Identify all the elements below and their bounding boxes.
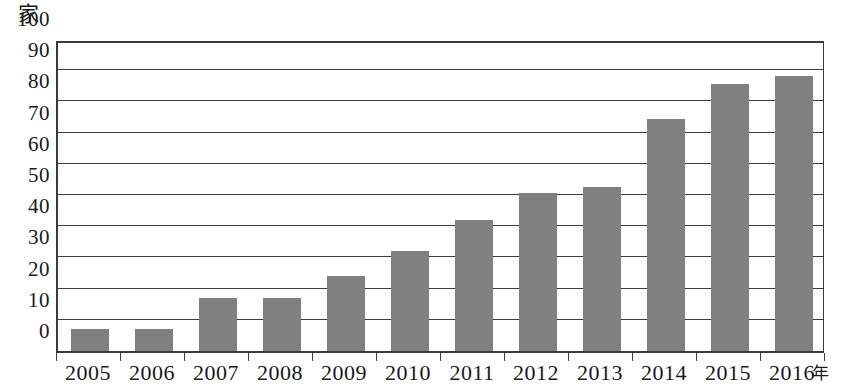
bar[interactable] <box>199 298 237 351</box>
bar-slot <box>570 43 634 351</box>
plot-area <box>56 41 824 353</box>
bar[interactable] <box>327 276 365 351</box>
bar[interactable] <box>455 220 493 351</box>
bar[interactable] <box>583 187 621 351</box>
bar[interactable] <box>263 298 301 351</box>
y-axis-tick-label: 40 <box>2 196 50 217</box>
bar-chart: 家 0102030405060708090100 200520062007200… <box>0 0 844 387</box>
bar[interactable] <box>391 251 429 351</box>
x-axis-tick-label: 2005 <box>65 360 111 386</box>
y-axis-tick-labels: 0102030405060708090100 <box>0 41 50 353</box>
bar-slot <box>506 43 570 351</box>
x-axis-tick-label: 2011 <box>449 360 494 386</box>
bar[interactable] <box>775 76 813 351</box>
bar-slot <box>442 43 506 351</box>
bar-slot <box>698 43 762 351</box>
bar[interactable] <box>647 119 685 351</box>
bar-slot <box>634 43 698 351</box>
y-axis-tick-label: 100 <box>2 9 50 30</box>
bar[interactable] <box>71 329 109 351</box>
x-axis-tick-label: 2009 <box>321 360 367 386</box>
x-axis-tick-label: 2014 <box>641 360 687 386</box>
x-axis-tick-label: 2015 <box>705 360 751 386</box>
bar-slot <box>186 43 250 351</box>
y-axis-tick-label: 10 <box>2 290 50 311</box>
bar-slot <box>314 43 378 351</box>
x-axis-unit-label: 年 <box>812 362 829 384</box>
y-axis-tick-label: 20 <box>2 259 50 280</box>
bar[interactable] <box>711 84 749 351</box>
x-axis-tick-labels: 2005200620072008200920102011201220132014… <box>56 360 824 387</box>
bar-slot <box>250 43 314 351</box>
bar-slot <box>58 43 122 351</box>
x-axis-tick-label: 2007 <box>193 360 239 386</box>
y-axis-tick-label: 30 <box>2 227 50 248</box>
bar[interactable] <box>135 329 173 351</box>
y-axis-tick-label: 50 <box>2 165 50 186</box>
y-axis-tick-label: 60 <box>2 134 50 155</box>
bar-series <box>58 43 823 351</box>
x-axis-tick-label: 2010 <box>385 360 431 386</box>
y-axis-tick-label: 0 <box>2 321 50 342</box>
x-axis-tick-label: 2013 <box>577 360 623 386</box>
bar-slot <box>122 43 186 351</box>
x-axis-tick-label: 2012 <box>513 360 559 386</box>
x-axis-tick <box>824 353 825 361</box>
y-axis-tick-label: 70 <box>2 103 50 124</box>
y-axis-tick-label: 80 <box>2 71 50 92</box>
y-axis-tick-label: 90 <box>2 40 50 61</box>
bar[interactable] <box>519 193 557 351</box>
bar-slot <box>762 43 826 351</box>
x-axis-tick-label: 2006 <box>129 360 175 386</box>
x-axis-tick-label: 2008 <box>257 360 303 386</box>
bar-slot <box>378 43 442 351</box>
x-axis-tick-label: 2016 <box>769 360 815 386</box>
